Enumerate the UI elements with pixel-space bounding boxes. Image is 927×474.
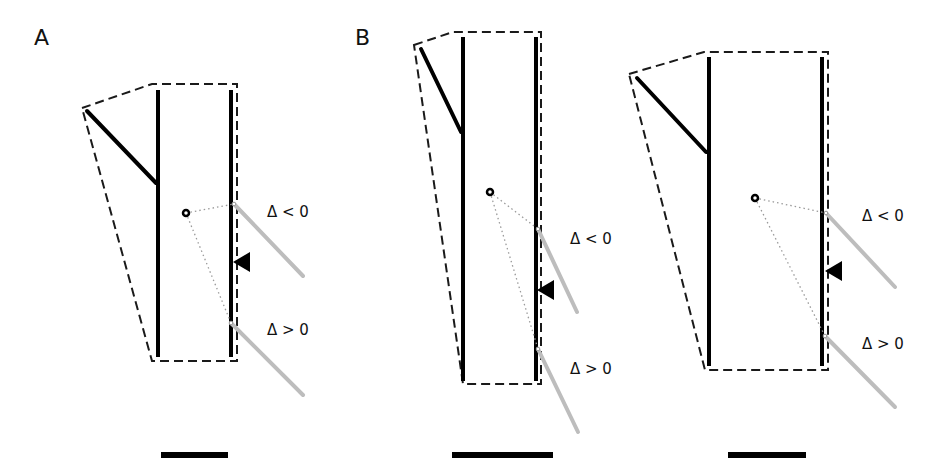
scale-bar <box>728 452 806 458</box>
schematic-figure: A B Δ < 0Δ > 0Δ < 0Δ > 0Δ < 0Δ > 0 <box>0 0 927 474</box>
ray-upper <box>186 204 234 213</box>
diagram-b2: Δ < 0Δ > 0 <box>629 52 904 458</box>
wall-arrow-icon <box>233 252 250 272</box>
delta-negative-label: Δ < 0 <box>862 207 904 225</box>
ray-lower <box>755 198 825 336</box>
scale-bar <box>452 452 553 458</box>
ray-upper <box>755 198 826 213</box>
focus-point-icon <box>487 189 493 195</box>
dashed-outline <box>414 32 541 384</box>
probe-tip-lower <box>536 347 540 351</box>
scale-bar <box>161 452 228 458</box>
delta-positive-label: Δ > 0 <box>862 335 904 353</box>
diagram-b1: Δ < 0Δ > 0 <box>414 32 612 458</box>
ray-upper <box>490 192 538 229</box>
delta-positive-label: Δ > 0 <box>267 321 309 339</box>
branch-line <box>637 78 706 152</box>
ray-lower <box>490 192 538 349</box>
probe-tip-upper <box>232 202 236 206</box>
diagram-group: Δ < 0Δ > 0Δ < 0Δ > 0Δ < 0Δ > 0 <box>82 32 904 458</box>
probe-tip-lower <box>229 321 233 325</box>
probe-tip-upper <box>536 227 540 231</box>
wall-arrow-icon <box>537 280 554 300</box>
ray-lower <box>186 213 231 323</box>
delta-positive-label: Δ > 0 <box>570 360 612 378</box>
delta-negative-label: Δ < 0 <box>267 203 309 221</box>
delta-negative-label: Δ < 0 <box>570 230 612 248</box>
panel-label-b: B <box>355 25 370 50</box>
focus-point-icon <box>752 195 758 201</box>
branch-line <box>421 49 461 132</box>
probe-tip-lower <box>823 334 827 338</box>
probe-tip-upper <box>824 211 828 215</box>
focus-point-icon <box>183 210 189 216</box>
branch-line <box>87 111 156 183</box>
panel-label-a: A <box>34 25 49 50</box>
diagram-a: Δ < 0Δ > 0 <box>82 84 309 458</box>
